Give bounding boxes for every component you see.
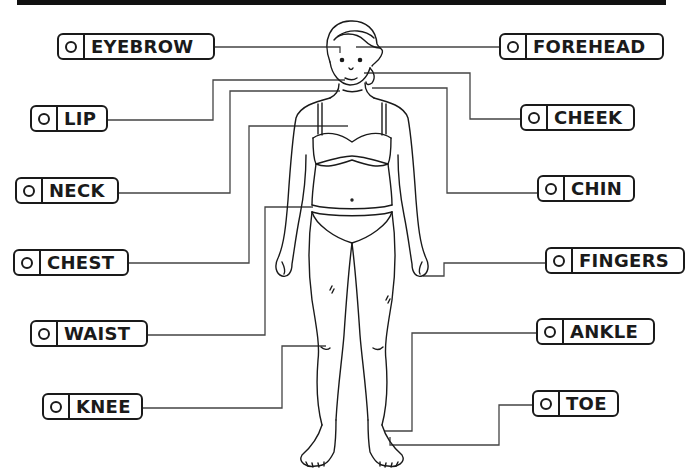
- label-chest[interactable]: CHEST: [13, 249, 129, 276]
- label-text-cheek: CHEEK: [548, 106, 633, 129]
- connector-cheek: [364, 73, 520, 119]
- connector-chest: [128, 126, 348, 263]
- label-text-knee: KNEE: [70, 395, 141, 418]
- label-fingers[interactable]: FINGERS: [545, 247, 685, 274]
- radio-cell: [539, 177, 565, 200]
- radio-cheek-icon[interactable]: [528, 112, 540, 124]
- connector-toe: [390, 405, 532, 445]
- radio-fingers-icon[interactable]: [553, 255, 565, 267]
- label-waist[interactable]: WAIST: [30, 320, 148, 347]
- radio-lip-icon[interactable]: [38, 113, 50, 125]
- radio-cell: [32, 107, 58, 130]
- label-toe[interactable]: TOE: [532, 390, 619, 417]
- label-chin[interactable]: CHIN: [537, 175, 635, 202]
- radio-cell: [547, 249, 573, 272]
- radio-forehead-icon[interactable]: [507, 41, 519, 53]
- label-text-forehead: FOREHEAD: [527, 35, 662, 58]
- radio-waist-icon[interactable]: [38, 328, 50, 340]
- label-forehead[interactable]: FOREHEAD: [499, 33, 664, 60]
- label-text-toe: TOE: [560, 392, 617, 415]
- label-text-ankle: ANKLE: [564, 320, 653, 343]
- label-text-fingers: FINGERS: [573, 249, 683, 272]
- connector-waist: [147, 207, 313, 335]
- label-text-eyebrow: EYEBROW: [85, 35, 213, 58]
- label-text-waist: WAIST: [58, 322, 146, 345]
- label-ankle[interactable]: ANKLE: [536, 318, 655, 345]
- radio-cell: [44, 395, 70, 418]
- radio-toe-icon[interactable]: [540, 398, 552, 410]
- connector-knee: [142, 346, 326, 408]
- radio-ankle-icon[interactable]: [544, 326, 556, 338]
- label-eyebrow[interactable]: EYEBROW: [57, 33, 215, 60]
- connector-fingers: [423, 263, 545, 276]
- label-text-neck: NECK: [43, 179, 117, 202]
- radio-cell: [501, 35, 527, 58]
- label-text-lip: LIP: [58, 107, 106, 130]
- connector-ankle: [384, 333, 536, 431]
- radio-cell: [17, 179, 43, 202]
- radio-knee-icon[interactable]: [50, 401, 62, 413]
- radio-neck-icon[interactable]: [23, 185, 35, 197]
- radio-cell: [522, 106, 548, 129]
- label-neck[interactable]: NECK: [15, 177, 119, 204]
- radio-cell: [538, 320, 564, 343]
- label-cheek[interactable]: CHEEK: [520, 104, 635, 131]
- radio-chin-icon[interactable]: [545, 183, 557, 195]
- label-text-chest: CHEST: [41, 251, 127, 274]
- label-knee[interactable]: KNEE: [42, 393, 143, 420]
- radio-eyebrow-icon[interactable]: [65, 41, 77, 53]
- radio-chest-icon[interactable]: [21, 257, 33, 269]
- connector-chin: [372, 88, 537, 193]
- radio-cell: [534, 392, 560, 415]
- label-text-chin: CHIN: [565, 177, 633, 200]
- radio-cell: [32, 322, 58, 345]
- radio-cell: [15, 251, 41, 274]
- connector-lines: [107, 47, 545, 445]
- connector-lip: [107, 80, 345, 120]
- connector-eyebrow: [214, 47, 340, 53]
- radio-cell: [59, 35, 85, 58]
- label-lip[interactable]: LIP: [30, 105, 108, 132]
